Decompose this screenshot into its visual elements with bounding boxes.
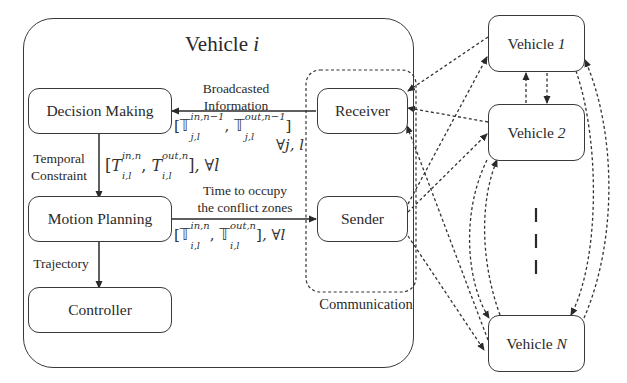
link-vN-to-receiver — [407, 126, 488, 340]
vehicle-1-box[interactable]: Vehicle 1 — [488, 15, 585, 72]
link-sender-to-v2 — [408, 134, 487, 212]
link-v1-to-receiver — [408, 37, 488, 91]
time-to-occupy-label: Time to occupy the conflict zones — [180, 182, 310, 216]
receiver-box[interactable]: Receiver — [317, 88, 408, 134]
vehicle-n-box[interactable]: Vehicle N — [488, 315, 585, 372]
trajectory-label: Trajectory — [24, 255, 98, 272]
vehicle-i-title: Vehicle i — [185, 32, 259, 57]
sender-box[interactable]: Sender — [317, 196, 408, 242]
temporal-constraint-math: [Tin,ni,l, Tout,ni,l], ∀l — [105, 151, 219, 182]
communication-label: Communication — [316, 296, 416, 313]
link-sender-to-v1 — [408, 57, 487, 204]
time-to-occupy-math: [𝕋in,ni,l, 𝕋out,ni,l], ∀l — [174, 221, 285, 251]
link-v2-to-vN — [470, 160, 489, 318]
broadcasted-information-label: Broadcasted Information — [196, 80, 276, 114]
link-v2-to-receiver — [408, 108, 488, 122]
link-vN-to-v1 — [584, 60, 609, 318]
link-sender-to-vN — [408, 236, 484, 350]
broadcast-math: [𝕋in,n−1j,l, 𝕋out,n−1j,l] — [174, 112, 291, 142]
link-vN-to-v2 — [485, 160, 500, 315]
decision-making-box[interactable]: Decision Making — [28, 88, 172, 134]
broadcast-forall: ∀j, l — [276, 136, 304, 154]
controller-box[interactable]: Controller — [28, 287, 172, 333]
temporal-constraint-label: Temporal Constraint — [20, 150, 98, 184]
motion-planning-box[interactable]: Motion Planning — [28, 196, 172, 242]
vehicle-2-box[interactable]: Vehicle 2 — [488, 104, 585, 161]
